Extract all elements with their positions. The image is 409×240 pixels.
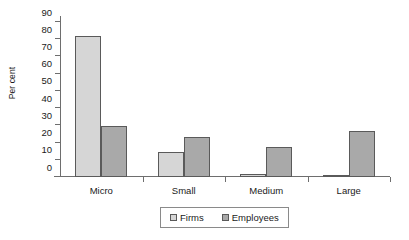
bar-firms-small — [158, 152, 184, 177]
bar-group — [308, 22, 391, 177]
y-axis-tick-label: 80 — [41, 25, 52, 35]
plot-area: 0102030405060708090 MicroSmallMediumLarg… — [60, 22, 390, 177]
bar-firms-micro — [75, 36, 101, 177]
y-axis-title: Per cent — [7, 53, 17, 113]
x-axis-tick — [143, 177, 144, 182]
y-axis-tick-label: 60 — [41, 59, 52, 69]
y-axis-tick-label: 70 — [41, 42, 52, 52]
y-axis-tick-label: 10 — [41, 146, 52, 156]
legend-item-employees[interactable]: Employees — [222, 213, 279, 223]
bar-employees-medium — [266, 147, 292, 177]
x-axis-label-micro: Micro — [90, 186, 113, 196]
y-axis-tick-label: 50 — [41, 77, 52, 87]
bar-firms-medium — [240, 174, 266, 177]
y-axis-tick-label: 30 — [41, 111, 52, 121]
chart-legend: FirmsEmployees — [160, 207, 289, 228]
bar-group — [60, 22, 143, 177]
bar-chart-figure: Per cent 0102030405060708090 MicroSmallM… — [0, 0, 409, 240]
bar-employees-large — [349, 131, 375, 178]
x-axis-tick — [225, 177, 226, 182]
legend-label: Firms — [180, 213, 204, 223]
bar-employees-small — [184, 137, 210, 177]
x-axis-label-large: Large — [337, 186, 361, 196]
bar-group — [225, 22, 308, 177]
y-axis-tick-label: 20 — [41, 128, 52, 138]
legend-swatch-firms-icon — [170, 214, 177, 221]
legend-swatch-employees-icon — [222, 214, 229, 221]
x-axis-label-medium: Medium — [249, 186, 283, 196]
bar-firms-large — [323, 175, 349, 177]
x-axis-label-small: Small — [172, 186, 196, 196]
y-axis-tick-label: 90 — [41, 8, 52, 18]
y-axis-tick-label: 40 — [41, 94, 52, 104]
legend-label: Employees — [232, 213, 279, 223]
bar-employees-micro — [101, 126, 127, 177]
bar-group — [143, 22, 226, 177]
x-axis-tick — [308, 177, 309, 182]
legend-item-firms[interactable]: Firms — [170, 213, 204, 223]
y-axis-tick-label: 0 — [47, 163, 52, 173]
x-axis-tick — [390, 177, 391, 182]
